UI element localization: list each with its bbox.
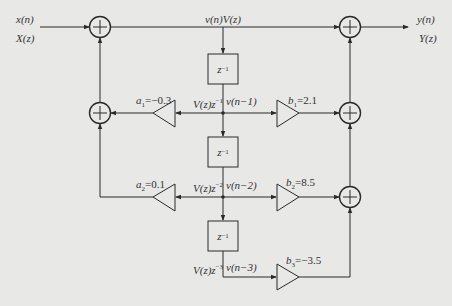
- coef-a1-label: a1=−0.3: [136, 94, 171, 111]
- adder-right-mid: [340, 103, 361, 124]
- tap1-n-label: v(n−1): [226, 95, 257, 107]
- tap3-z-label: V(z)z−3: [193, 261, 223, 276]
- node-1: [221, 111, 225, 115]
- input-freq-label: X(z): [16, 32, 34, 44]
- node-2: [221, 195, 225, 199]
- adder-right-top: [340, 17, 361, 38]
- delay-label-2: z−1: [208, 137, 238, 167]
- tap3-n-label: v(n−3): [226, 261, 257, 273]
- output-time-label: y(n): [417, 13, 435, 25]
- center-signal-label: v(n)V(z): [205, 13, 241, 25]
- coef-a2-label: a2=0.1: [136, 178, 165, 195]
- tap2-n-label: v(n−2): [226, 179, 257, 191]
- adder-right-bot: [340, 187, 361, 208]
- adder-left-top: [90, 17, 111, 38]
- coef-b3-label: b3=−3.5: [286, 254, 321, 271]
- delay-label-3: z−1: [208, 221, 238, 251]
- input-time-label: x(n): [16, 13, 34, 25]
- tap2-z-label: V(z)z−2: [193, 179, 223, 194]
- coef-b1-label: b1=2.1: [288, 94, 317, 111]
- adder-left-mid: [90, 103, 111, 124]
- output-freq-label: Y(z): [419, 32, 437, 44]
- delay-label-1: z−1: [208, 54, 238, 84]
- signal-flow-diagram: z−1 z−1 z−1 x(n) X(z) y(n) Y(z) v(n)V(z)…: [0, 0, 452, 306]
- coef-b2-label: b2=8.5: [286, 176, 315, 193]
- tap1-z-label: V(z)z−1: [193, 95, 223, 110]
